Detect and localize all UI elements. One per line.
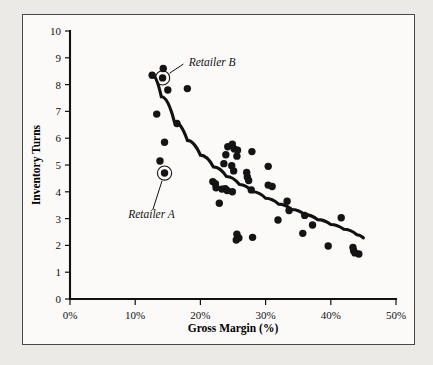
data-point <box>338 214 345 221</box>
data-point <box>153 110 160 117</box>
data-point <box>233 152 240 159</box>
data-point <box>156 157 163 164</box>
data-point <box>161 169 168 176</box>
data-point <box>230 167 237 174</box>
figure-page: 012345678910 0%10%20%30%40%50% Inventory… <box>0 0 433 365</box>
x-tick-label: 20% <box>190 309 210 321</box>
data-point <box>283 197 290 204</box>
x-axis-title: Gross Margin (%) <box>188 322 279 335</box>
y-tick-label: 5 <box>56 159 62 171</box>
x-tick-label: 10% <box>125 309 145 321</box>
data-point <box>355 250 362 257</box>
y-tick-label: 0 <box>56 293 62 305</box>
data-point <box>265 163 272 170</box>
data-point <box>249 234 256 241</box>
data-point <box>274 216 281 223</box>
x-axis-tick-labels: 0%10%20%30%40%50% <box>63 309 406 321</box>
y-tick-label: 2 <box>56 239 62 251</box>
data-point <box>173 120 180 127</box>
data-point <box>220 160 227 167</box>
data-point <box>248 148 255 155</box>
y-tick-label: 8 <box>56 79 62 91</box>
data-point <box>164 86 171 93</box>
y-axis-tick-labels: 012345678910 <box>50 25 62 305</box>
y-tick-label: 6 <box>56 132 62 144</box>
x-tick-label: 40% <box>321 309 341 321</box>
x-tick-label: 0% <box>63 309 78 321</box>
data-point <box>301 212 308 219</box>
annotation-leader-line <box>169 64 183 73</box>
data-point <box>245 177 252 184</box>
data-point <box>268 183 275 190</box>
data-point <box>324 242 331 249</box>
annotation-label: Retailer A <box>127 208 176 220</box>
data-point <box>248 186 255 193</box>
annotation-label: Retailer B <box>188 56 236 68</box>
data-point <box>184 85 191 92</box>
annotations: Retailer BRetailer A <box>127 56 236 220</box>
data-point <box>299 230 306 237</box>
data-point <box>159 74 166 81</box>
scatter-chart: 012345678910 0%10%20%30%40%50% Inventory… <box>0 0 433 365</box>
data-point <box>161 139 168 146</box>
data-point <box>216 200 223 207</box>
y-tick-label: 3 <box>56 213 62 225</box>
data-point <box>222 151 229 158</box>
data-point <box>148 72 155 79</box>
data-point <box>285 207 292 214</box>
y-tick-label: 7 <box>56 105 62 117</box>
x-tick-label: 30% <box>256 309 276 321</box>
annotation-leader-line <box>153 181 162 210</box>
y-tick-label: 4 <box>56 186 62 198</box>
x-tick-label: 50% <box>386 309 406 321</box>
y-tick-label: 1 <box>56 266 62 278</box>
y-tick-label: 10 <box>50 25 62 37</box>
data-point <box>309 221 316 228</box>
y-tick-label: 9 <box>56 52 62 64</box>
data-point <box>229 188 236 195</box>
y-axis-title: Inventory Turns <box>30 124 43 205</box>
data-points <box>148 65 362 258</box>
trend-curve <box>152 74 364 237</box>
data-point <box>224 143 231 150</box>
data-point <box>233 236 240 243</box>
